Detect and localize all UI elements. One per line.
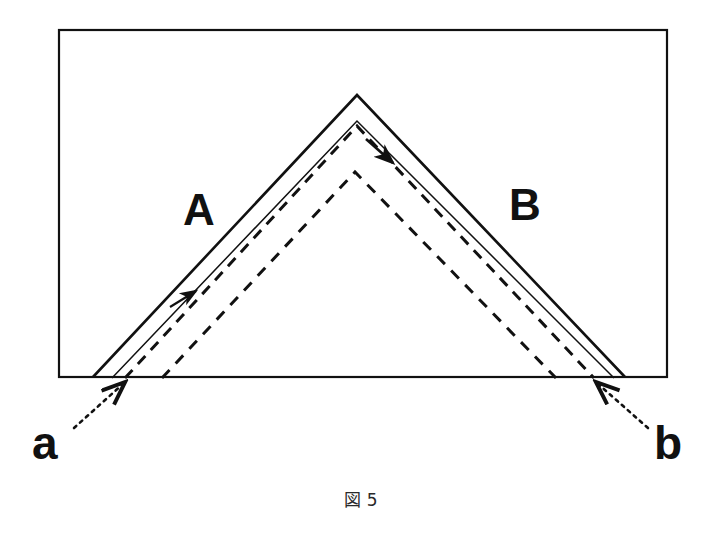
point-label-b: b xyxy=(654,420,682,466)
figure-caption: 図 5 xyxy=(0,492,722,509)
leader-line-b xyxy=(597,383,648,428)
point-label-a: a xyxy=(32,420,58,466)
figure-5: A B a b 図 5 xyxy=(0,0,722,538)
region-label-a: A xyxy=(183,188,215,232)
region-label-b: B xyxy=(509,183,541,227)
figure-drawing-canvas xyxy=(0,0,722,538)
leader-line-a xyxy=(74,383,124,428)
